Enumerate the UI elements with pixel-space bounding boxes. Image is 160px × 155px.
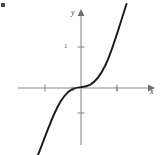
origin-label: 0 [71,86,75,93]
math-figure: y x 0 1 1 [0,0,160,155]
y-axis-group [78,9,85,145]
y-axis-label: y [71,9,75,17]
x-axis-label: x [150,88,154,96]
function-curve [38,4,127,155]
x-tick-label-one: 1 [115,86,119,93]
y-tick-label-one: 1 [64,43,68,50]
plot-canvas [0,0,160,155]
y-axis-arrowhead [78,9,85,16]
